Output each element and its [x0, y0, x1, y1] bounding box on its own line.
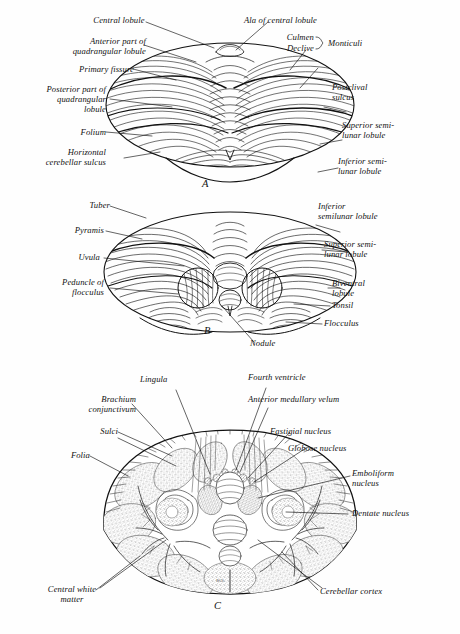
label-pyramis: Pyramis [14, 225, 104, 235]
panel-letter-c: C [214, 600, 221, 611]
label-peduncle-of-flocculus: Peduncle of flocculus [4, 277, 104, 297]
label-horizontal-cerebellar-sulcus: Horizontal cerebellar sulcus [4, 147, 106, 167]
plate-caption [0, 621, 460, 634]
label-central-lobule: Central lobule [64, 15, 174, 25]
panel-a-artwork [95, 43, 365, 182]
label-flocculus: Flocculus [324, 318, 414, 328]
label-sulci: Sulci [40, 426, 118, 436]
label-lingula: Lingula [140, 374, 220, 384]
label-cerebellar-cortex: Cerebellar cortex [320, 586, 440, 596]
panel-letter-b: B [204, 325, 210, 336]
label-globose-nucleus: Globose nucleus [288, 443, 420, 453]
label-superior-semilunar-lobule-b: Superior semi- lunar lobule [324, 239, 448, 259]
label-folia: Folia [24, 450, 90, 460]
label-ala-of-central-lobule: Ala of central lobule [244, 15, 394, 25]
label-primary-fissure: Primary fissure [10, 64, 134, 74]
label-declive: Declive [248, 43, 314, 53]
label-posterior-quadrangular-lobule: Posterior part of quadrangular lobule [4, 84, 106, 115]
label-tuber: Tuber [24, 200, 110, 210]
label-inferior-semilunar-lobule-a: Inferior semi- lunar lobule [338, 156, 452, 176]
label-culmen: Culmen [248, 32, 314, 42]
label-nodule: Nodule [250, 338, 330, 348]
label-superior-semilunar-lobule-a: Superior semi- lunar lobule [342, 120, 452, 140]
label-fastigial-nucleus: Fastigial nucleus [270, 426, 400, 436]
label-monticuli: Monticuli [328, 38, 414, 48]
label-emboliform-nucleus: Emboliform nucleus [352, 468, 448, 488]
panel-letter-a: A [202, 178, 208, 189]
panel-b-artwork [104, 212, 356, 334]
label-central-white-matter: Central white matter [20, 584, 124, 604]
label-biventral-lobule: Biventral lobule [332, 278, 428, 298]
label-folium: Folium [10, 127, 106, 137]
label-brachium-conjunctivum: Brachium conjunctivum [56, 394, 136, 414]
label-inferior-semilunar-lobule-b: Inferior semilunar lobule [318, 201, 448, 221]
label-tonsil: Tonsil [332, 300, 412, 310]
label-anterior-quadrangular-lobule: Anterior part of quadrangular lobule [10, 36, 146, 56]
label-uvula: Uvula [14, 252, 100, 262]
label-anterior-medullary-velum: Anterior medullary velum [248, 394, 428, 404]
artist-signature: W.S. [216, 578, 225, 583]
anatomical-plate: Central lobule Anterior part of quadrang… [0, 0, 460, 634]
label-fourth-ventricle: Fourth ventricle [248, 372, 368, 382]
label-dentate-nucleus: Dentate nucleus [352, 508, 460, 518]
label-postclival-sulcus: Postclival sulcus [332, 82, 428, 102]
